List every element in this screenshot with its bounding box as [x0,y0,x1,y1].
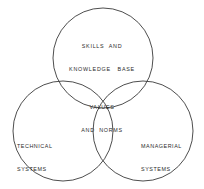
venn-diagram: SKILLS AND KNOWLEDGE BASE VALUES AND NOR… [0,0,204,189]
label-values-line-1: VALUES [0,104,204,112]
label-technical-systems: TECHNICAL SYSTEMS [17,128,53,189]
label-managerial-systems: MANAGERIAL SYSTEMS [141,128,182,189]
label-technical-line-2: SYSTEMS [17,166,53,174]
label-managerial-line-2: SYSTEMS [141,166,182,174]
label-skills-line-1: SKILLS AND [0,43,204,51]
label-technical-line-1: TECHNICAL [17,143,53,151]
label-skills-and-knowledge-base: SKILLS AND KNOWLEDGE BASE [0,28,204,89]
label-skills-line-2: KNOWLEDGE BASE [0,66,204,74]
label-managerial-line-1: MANAGERIAL [141,143,182,151]
